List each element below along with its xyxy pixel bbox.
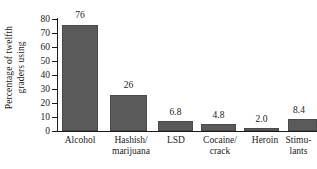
category-label-stimulants-line-2: lants xyxy=(280,146,317,157)
bar-value-stimulants: 8.4 xyxy=(284,105,314,115)
category-label-cocaine-crack-line-2: crack xyxy=(191,146,249,157)
category-label-cocaine-crack: Cocaine/ crack xyxy=(191,135,249,157)
y-axis-title-line-1: Percentage of twelfth xyxy=(5,25,17,108)
category-label-cocaine-crack-line-1: Cocaine/ xyxy=(191,135,249,146)
category-label-stimulants: Stimu- lants xyxy=(280,135,317,157)
y-tick-label-40: 40 xyxy=(28,71,50,81)
bar-value-hashish-marijuana: 26 xyxy=(110,80,147,90)
y-tick-label-30: 30 xyxy=(28,85,50,95)
category-label-alcohol: Alcohol xyxy=(53,135,107,146)
bar-heroin[interactable] xyxy=(244,128,279,131)
bar-chart: Percentage of twelfth graders using 80 7… xyxy=(0,0,317,169)
x-axis-line xyxy=(57,131,317,132)
category-label-alcohol-line-1: Alcohol xyxy=(53,135,107,146)
y-tick-label-10: 10 xyxy=(28,113,50,123)
bar-lsd[interactable] xyxy=(158,121,193,131)
y-axis-title-line-2: graders using xyxy=(16,25,28,108)
y-tick-label-60: 60 xyxy=(28,43,50,53)
category-label-stimulants-line-1: Stimu- xyxy=(280,135,317,146)
y-tick-label-70: 70 xyxy=(28,29,50,39)
bar-value-cocaine-crack: 4.8 xyxy=(201,110,236,120)
bar-value-alcohol: 76 xyxy=(62,10,98,20)
y-tick-label-50: 50 xyxy=(28,57,50,67)
y-tick-0 xyxy=(52,131,57,132)
bar-value-heroin: 2.0 xyxy=(244,114,279,124)
bar-value-lsd: 6.8 xyxy=(158,107,193,117)
category-label-hashish-marijuana-line-2: marijuana xyxy=(100,146,162,157)
bar-alcohol[interactable] xyxy=(62,25,98,131)
y-tick-label-80: 80 xyxy=(28,15,50,25)
bar-cocaine-crack[interactable] xyxy=(201,124,236,131)
bar-stimulants[interactable] xyxy=(288,119,317,131)
y-tick-label-0: 0 xyxy=(28,127,50,137)
bar-hashish-marijuana[interactable] xyxy=(110,95,147,131)
y-tick-label-20: 20 xyxy=(28,99,50,109)
